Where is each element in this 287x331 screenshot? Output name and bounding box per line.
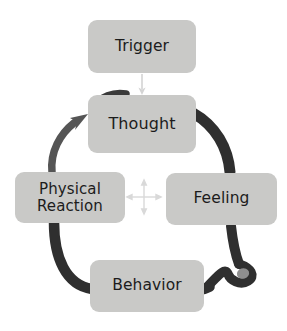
connector-thought-to-feeling <box>193 113 230 172</box>
node-feeling: Feeling <box>166 173 277 225</box>
connector-feeling-to-behavior <box>200 226 252 290</box>
node-behavior-label: Behavior <box>109 277 185 294</box>
connector-physical-to-thought <box>52 114 88 172</box>
node-physical-reaction-label: Physical Reaction <box>34 181 106 215</box>
node-feeling-label: Feeling <box>190 190 252 207</box>
cbt-cycle-diagram: Trigger Thought Feeling Behavior Physica… <box>0 0 287 331</box>
connector-physical-to-behavior <box>54 222 92 289</box>
node-thought: Thought <box>88 95 196 153</box>
center-cross-four-way-arrow-icon <box>127 180 161 214</box>
node-thought-label: Thought <box>105 115 178 133</box>
connector-trigger-to-thought <box>138 74 145 95</box>
node-trigger: Trigger <box>88 20 196 73</box>
node-physical-reaction: Physical Reaction <box>15 172 125 223</box>
node-behavior: Behavior <box>90 260 204 312</box>
node-trigger-label: Trigger <box>112 38 172 55</box>
